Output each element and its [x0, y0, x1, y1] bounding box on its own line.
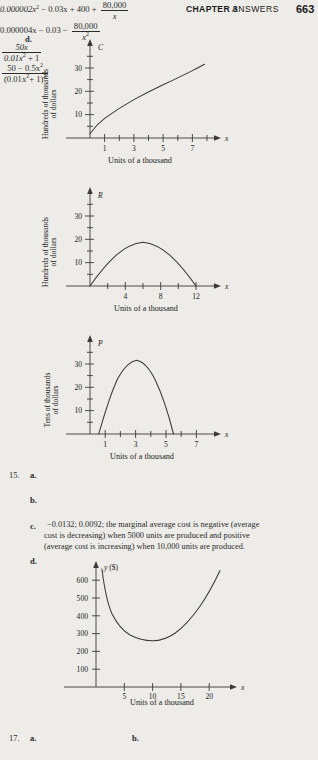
- svg-text:30: 30: [74, 360, 82, 369]
- svg-text:3: 3: [132, 144, 136, 153]
- svg-text:600: 600: [77, 576, 89, 585]
- figure-revenue-plot: 10 20 30 4 8 12 R x: [30, 186, 245, 304]
- svg-text:10: 10: [74, 258, 82, 267]
- item-15c-text: −0.0132; 0.0092; the marginal average co…: [47, 519, 305, 552]
- figure-average-cost-plot: 100 200 300 400 500 600 5 10 15 20 y ($)…: [34, 556, 274, 701]
- figure-profit-xlabel: Units of a thousand: [62, 452, 222, 461]
- figure-profit-ylabel: Tens of thousands of dollars: [44, 348, 61, 452]
- svg-text:100: 100: [77, 665, 89, 674]
- answers-page: CHAPTER 3 ANSWERS 663 d. Hundreds of tho…: [0, 0, 318, 760]
- svg-text:30: 30: [74, 212, 82, 221]
- svg-text:7: 7: [195, 440, 199, 449]
- figure-cost: Hundreds of thousands of dollars 10 20 3: [30, 38, 245, 156]
- item-15c-label: c.: [30, 521, 36, 531]
- svg-text:R: R: [97, 191, 103, 200]
- svg-text:P: P: [97, 339, 103, 348]
- item-15-number: 15.: [9, 470, 20, 480]
- svg-text:5: 5: [161, 144, 165, 153]
- figure-revenue-ylabel: Hundreds of thousands of dollars: [42, 196, 59, 308]
- figure-average-cost: 100 200 300 400 500 600 5 10 15 20 y ($)…: [34, 556, 274, 701]
- svg-text:400: 400: [77, 612, 89, 621]
- svg-text:7: 7: [191, 144, 195, 153]
- item-15a-label: a.: [30, 470, 36, 480]
- svg-text:5: 5: [164, 440, 168, 449]
- svg-text:x: x: [224, 134, 229, 143]
- svg-text:10: 10: [74, 110, 82, 119]
- svg-text:x: x: [224, 430, 229, 439]
- figure-cost-xlabel: Units of a thousand: [60, 156, 220, 165]
- figure-average-cost-xlabel: Units of a thousand: [82, 698, 242, 707]
- svg-text:C: C: [98, 43, 104, 52]
- figure-cost-plot: 10 20 30 1 3 5 7 C x: [30, 38, 245, 156]
- svg-text:1: 1: [103, 440, 107, 449]
- svg-text:12: 12: [192, 292, 200, 301]
- svg-text:8: 8: [159, 292, 163, 301]
- svg-text:1: 1: [103, 144, 107, 153]
- figure-revenue: Hundreds of thousands of dollars 10 20 3…: [30, 186, 245, 304]
- svg-text:x: x: [240, 683, 245, 692]
- figure-profit: Tens of thousands of dollars 10 20 30: [30, 334, 245, 452]
- item-17b-label: b.: [132, 733, 139, 743]
- running-head-chapter: CHAPTER 3: [186, 4, 238, 14]
- svg-text:300: 300: [77, 629, 89, 638]
- running-head: CHAPTER 3 ANSWERS 663: [0, 3, 318, 19]
- figure-cost-ylabel: Hundreds of thousands of dollars: [42, 48, 59, 160]
- figure-profit-plot: 10 20 30 1 3 5 7 P x: [30, 334, 245, 452]
- svg-text:4: 4: [123, 292, 127, 301]
- item-17-number: 17.: [9, 733, 20, 743]
- item-17a-label: a.: [30, 733, 36, 743]
- svg-text:y ($): y ($): [103, 563, 119, 572]
- svg-text:20: 20: [74, 87, 82, 96]
- svg-text:30: 30: [74, 64, 82, 73]
- svg-text:20: 20: [74, 235, 82, 244]
- svg-text:10: 10: [74, 406, 82, 415]
- figure-revenue-xlabel: Units of a thousand: [66, 304, 226, 313]
- item-15b-label: b.: [30, 495, 37, 505]
- svg-text:500: 500: [77, 594, 89, 603]
- svg-text:x: x: [224, 282, 229, 291]
- svg-text:3: 3: [134, 440, 138, 449]
- svg-text:20: 20: [74, 383, 82, 392]
- svg-text:200: 200: [77, 647, 89, 656]
- page-number: 663: [296, 3, 314, 15]
- running-head-section: ANSWERS: [232, 4, 279, 14]
